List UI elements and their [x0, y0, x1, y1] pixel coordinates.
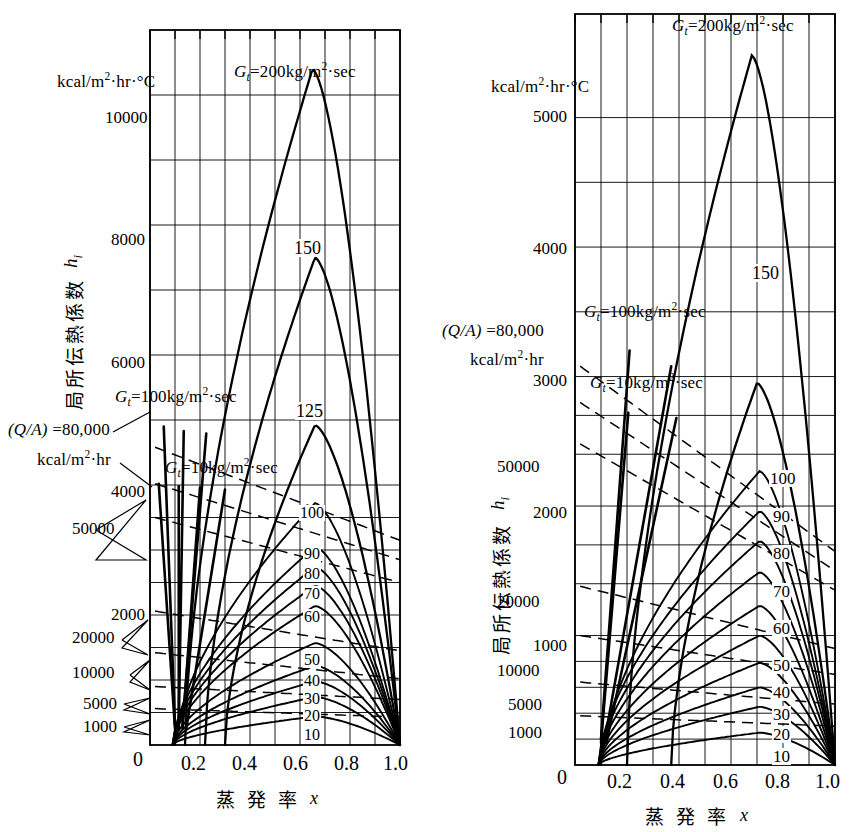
right-curve-label-10: 10: [772, 748, 791, 765]
left-xtick-0.8: 0.8: [334, 752, 359, 775]
left-x-axis-title: 蒸 発 率: [216, 785, 300, 812]
left-xtick-0.2: 0.2: [181, 752, 206, 775]
right-y-axis-symbol: hi: [487, 497, 513, 510]
figure-root: kcal/m2·hr·°C 10000 8000 6000 4000 2000 …: [0, 0, 858, 832]
left-curve-label-80: 80: [303, 566, 321, 582]
right-g200-label: Gt=200kg/m2·sec: [672, 14, 794, 38]
right-ytick-3000: 3000: [533, 371, 567, 391]
left-qa-unit-label: kcal/m2·hr: [37, 448, 111, 470]
left-ytick-8000: 8000: [111, 230, 145, 250]
right-unit-h-label: kcal/m2·hr·°C: [491, 75, 589, 97]
right-ytick-5000: 5000: [533, 107, 567, 127]
left-curve-label-60: 60: [303, 609, 321, 625]
left-curve-label-20: 20: [303, 708, 321, 724]
right-curve-label-150: 150: [751, 264, 780, 282]
right-ycallout-1000: 1000: [508, 723, 542, 743]
left-ytick-0: 0: [133, 748, 143, 771]
left-unit-h-label: kcal/m2·hr·°C: [57, 70, 155, 92]
left-ycallout-10000: 10000: [72, 663, 115, 683]
right-xtick-1.0: 1.0: [815, 770, 840, 793]
right-xtick-0.8: 0.8: [765, 770, 790, 793]
right-x-axis-symbol: x: [740, 805, 748, 826]
right-curve-label-100: 100: [769, 470, 797, 487]
right-ytick-1000: 1000: [533, 636, 567, 656]
right-curve-label-90: 90: [772, 508, 791, 525]
left-ytick-6000: 6000: [111, 353, 145, 373]
right-y-axis-title: 局所伝熱係数: [487, 523, 514, 655]
left-ycallout-5000: 5000: [83, 694, 117, 714]
left-y-axis-title: 局所伝熱係数: [60, 278, 87, 410]
left-ytick-2000: 2000: [111, 605, 145, 625]
left-ycallout-1000: 1000: [83, 717, 117, 737]
left-g200-label: Gt=200kg/m2·sec: [234, 60, 356, 84]
right-g10-label: Gt=10kg/m2·sec: [590, 371, 703, 395]
left-xtick-1.0: 1.0: [383, 752, 408, 775]
right-ycallout-5000: 5000: [508, 695, 542, 715]
left-x-axis-symbol: x: [310, 788, 318, 809]
right-qa-unit-label: kcal/m2·hr: [470, 348, 544, 370]
left-curve-label-100: 100: [299, 505, 325, 521]
left-g100-label: Gt=100kg/m2·sec: [115, 385, 237, 409]
left-curve-label-50: 50: [303, 652, 321, 668]
left-g10-label: Gt=10kg/m2·sec: [165, 456, 278, 480]
right-qa-value-label: (Q/A) =80,000: [442, 321, 544, 341]
right-ytick-2000: 2000: [533, 503, 567, 523]
right-ycallout-10000: 10000: [497, 661, 540, 681]
right-curve-label-80: 80: [772, 545, 791, 562]
left-curve-label-40: 40: [303, 673, 321, 689]
right-xtick-0.2: 0.2: [607, 770, 632, 793]
left-curve-label-90: 90: [303, 546, 321, 562]
left-xtick-0.4: 0.4: [232, 752, 257, 775]
left-xtick-0.6: 0.6: [283, 752, 308, 775]
right-x-axis-title: 蒸 発 率: [645, 802, 729, 829]
left-ytick-10000: 10000: [105, 108, 148, 128]
right-ytick-0: 0: [557, 766, 567, 789]
left-ycallout-50000: 50000: [72, 519, 115, 539]
right-curve-label-50: 50: [772, 657, 791, 674]
right-xtick-0.4: 0.4: [660, 770, 685, 793]
left-curve-label-125: 125: [295, 402, 324, 420]
right-chart-plot: [430, 0, 858, 832]
right-curve-label-30: 30: [772, 706, 791, 723]
left-ytick-4000: 4000: [111, 482, 145, 502]
right-curve-label-20: 20: [772, 726, 791, 743]
right-ytick-4000: 4000: [533, 239, 567, 259]
right-g100-label: Gt=100kg/m2·sec: [584, 300, 706, 324]
right-ycallout-50000: 50000: [497, 457, 540, 477]
left-curve-label-150: 150: [293, 239, 322, 257]
right-curve-label-40: 40: [772, 684, 791, 701]
left-curve-label-30: 30: [303, 691, 321, 707]
left-curve-label-10: 10: [303, 727, 321, 743]
left-y-axis-symbol: hi: [60, 255, 86, 268]
right-xtick-0.6: 0.6: [713, 770, 738, 793]
right-curve-label-60: 60: [772, 620, 791, 637]
left-curve-label-70: 70: [303, 586, 321, 602]
left-chart-plot: [0, 0, 430, 832]
left-ycallout-20000: 20000: [72, 628, 115, 648]
right-curve-label-70: 70: [772, 583, 791, 600]
left-qa-value-label: (Q/A) =80,000: [8, 420, 110, 440]
